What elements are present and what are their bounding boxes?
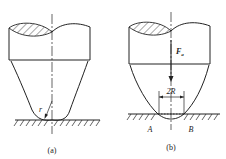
dimension-label-2r: 2R [167, 87, 176, 96]
radius-label: r [39, 105, 43, 114]
point-a-label: A [147, 125, 153, 134]
contact-diagram: r (a) Fa [0, 0, 226, 159]
force-arrowhead-icon [169, 76, 174, 82]
section-hatch-a [9, 23, 52, 36]
dim-arrow-left-icon [159, 96, 163, 99]
panel-a: r (a) [9, 14, 100, 155]
caption-b: (b) [166, 143, 176, 152]
arrowhead-icon [45, 114, 49, 120]
break-line-a [52, 24, 90, 32]
ground-hatch-a [14, 120, 100, 126]
radius-arrow-a [46, 101, 52, 116]
dim-arrow-right-icon [180, 96, 184, 99]
caption-a: (a) [48, 146, 57, 155]
section-hatch-b [129, 22, 171, 35]
tip-profile-a [11, 61, 88, 120]
point-b-label: B [189, 125, 194, 134]
force-label: Fa [175, 47, 184, 57]
panel-b: Fa 2R A B (b) [127, 12, 220, 152]
break-line-b [171, 23, 210, 31]
